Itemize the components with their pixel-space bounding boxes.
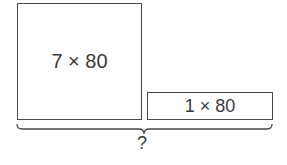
- unknown-total-label: ?: [137, 133, 147, 154]
